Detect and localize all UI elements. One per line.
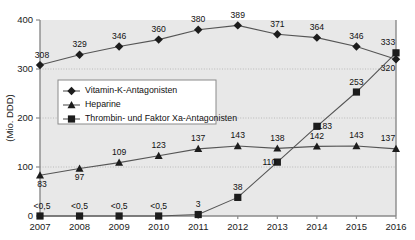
data-point-label: 142 — [310, 131, 325, 141]
x-tick-label: 2009 — [109, 221, 130, 232]
y-tick-label: 0 — [28, 210, 33, 221]
data-point-label: 137 — [191, 133, 206, 143]
data-point-marker — [155, 212, 162, 219]
legend-label-3: Thrombin- und Faktor Xa-Antagonisten — [85, 113, 237, 123]
x-tick-label: 2012 — [227, 221, 248, 232]
data-point-label: 183 — [318, 121, 333, 131]
data-point-marker — [68, 115, 75, 122]
data-point-label: <0,5 — [150, 201, 167, 211]
data-point-label: 380 — [191, 14, 206, 24]
data-point-label: 333 — [381, 37, 396, 47]
data-point-label: 346 — [349, 31, 364, 41]
data-point-marker — [353, 88, 360, 95]
data-point-label: 371 — [270, 19, 285, 29]
y-tick-label: 100 — [17, 161, 33, 172]
data-point-label: 137 — [381, 133, 396, 143]
data-point-label: 346 — [112, 31, 127, 41]
line-chart: 0100200300400(Mio. DDD)20072008200920102… — [0, 0, 415, 240]
data-point-marker — [116, 212, 123, 219]
legend-label-1: Vitamin-K-Antagonisten — [85, 85, 177, 95]
y-tick-label: 400 — [17, 14, 33, 25]
data-point-label: 329 — [72, 39, 87, 49]
data-point-label: 123 — [151, 140, 166, 150]
y-axis-title: (Mio. DDD) — [4, 94, 15, 142]
data-point-label: 364 — [310, 22, 325, 32]
data-point-label: 143 — [349, 130, 364, 140]
data-point-label: <0,5 — [111, 201, 128, 211]
x-tick-label: 2011 — [188, 221, 208, 232]
data-point-label: <0,5 — [71, 201, 88, 211]
data-point-marker — [234, 194, 241, 201]
data-point-label: 109 — [112, 147, 127, 157]
y-tick-label: 200 — [17, 112, 33, 123]
data-point-label: 110 — [262, 157, 276, 167]
data-point-marker — [36, 212, 43, 219]
legend-label-2: Heparine — [85, 99, 121, 109]
data-point-label: 3 — [196, 199, 201, 209]
data-point-label: 143 — [231, 130, 246, 140]
chart-container: 0100200300400(Mio. DDD)20072008200920102… — [0, 0, 415, 240]
data-point-label: 83 — [37, 179, 47, 189]
data-point-label: 38 — [233, 182, 243, 192]
data-point-label: 308 — [35, 50, 50, 60]
data-point-marker — [76, 212, 83, 219]
data-point-label: 320 — [381, 63, 396, 73]
x-tick-label: 2016 — [385, 221, 406, 232]
data-point-label: 253 — [349, 77, 364, 87]
data-point-label: 97 — [75, 172, 85, 182]
data-point-marker — [195, 211, 202, 218]
x-tick-label: 2015 — [346, 221, 367, 232]
y-tick-label: 300 — [17, 63, 33, 74]
x-tick-label: 2013 — [267, 221, 288, 232]
data-point-label: 138 — [270, 133, 285, 143]
data-point-label: <0,5 — [34, 201, 51, 211]
x-tick-label: 2008 — [69, 221, 90, 232]
x-tick-label: 2010 — [148, 221, 169, 232]
x-tick-label: 2007 — [29, 221, 50, 232]
x-tick-label: 2014 — [306, 221, 327, 232]
data-point-marker — [392, 49, 399, 56]
data-point-label: 360 — [151, 24, 166, 34]
data-point-label: 389 — [231, 10, 246, 20]
